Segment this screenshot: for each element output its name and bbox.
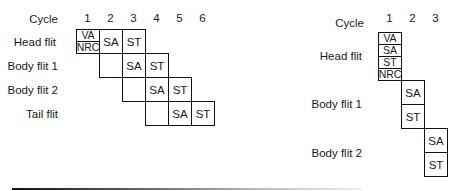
left-tail-sa-cell: SA bbox=[168, 101, 192, 126]
left-row-label-tail: Tail flit bbox=[0, 108, 58, 120]
right-body2-sa-cell: SA bbox=[424, 128, 448, 153]
left-tail-st-cell: ST bbox=[191, 101, 215, 126]
right-row-label-body2: Body flit 2 bbox=[300, 147, 362, 159]
left-body1-sa-cell: SA bbox=[122, 53, 146, 78]
left-cycle-6: 6 bbox=[191, 12, 214, 24]
left-cycle-3: 3 bbox=[122, 12, 145, 24]
left-body2-sa-cell: SA bbox=[145, 77, 169, 102]
right-row-label-body1: Body flit 1 bbox=[300, 98, 362, 110]
left-body1-st-cell: ST bbox=[145, 53, 169, 78]
right-cycle-1: 1 bbox=[378, 12, 401, 24]
left-body2-st-cell: ST bbox=[168, 77, 192, 102]
left-row-label-body1: Body flit 1 bbox=[0, 60, 58, 72]
right-body1-st-cell: ST bbox=[401, 104, 425, 129]
left-cycle-5: 5 bbox=[168, 12, 191, 24]
left-row-label-body2: Body flit 2 bbox=[0, 84, 58, 96]
right-body2-st-cell: ST bbox=[424, 152, 448, 177]
left-row-label-head: Head flit bbox=[0, 36, 56, 48]
left-head-st-cell: ST bbox=[122, 29, 146, 54]
left-head-nrc-cell: NRC bbox=[76, 41, 100, 54]
bottom-rule-divider bbox=[12, 188, 362, 190]
right-cycle-3: 3 bbox=[424, 12, 447, 24]
right-cycle-label: Cycle bbox=[300, 17, 364, 29]
right-head-nrc-cell: NRC bbox=[378, 68, 402, 81]
right-body1-sa-cell: SA bbox=[401, 80, 425, 105]
right-row-label-head: Head flit bbox=[300, 50, 362, 62]
left-body1-empty-cell bbox=[99, 53, 123, 78]
left-tail-empty-cell bbox=[145, 101, 169, 126]
left-cycle-2: 2 bbox=[99, 12, 122, 24]
left-cycle-4: 4 bbox=[145, 12, 168, 24]
left-head-sa-cell: SA bbox=[99, 29, 123, 54]
left-body2-empty-cell bbox=[122, 77, 146, 102]
right-cycle-2: 2 bbox=[401, 12, 424, 24]
left-cycle-label: Cycle bbox=[0, 13, 58, 25]
left-cycle-1: 1 bbox=[76, 12, 99, 24]
